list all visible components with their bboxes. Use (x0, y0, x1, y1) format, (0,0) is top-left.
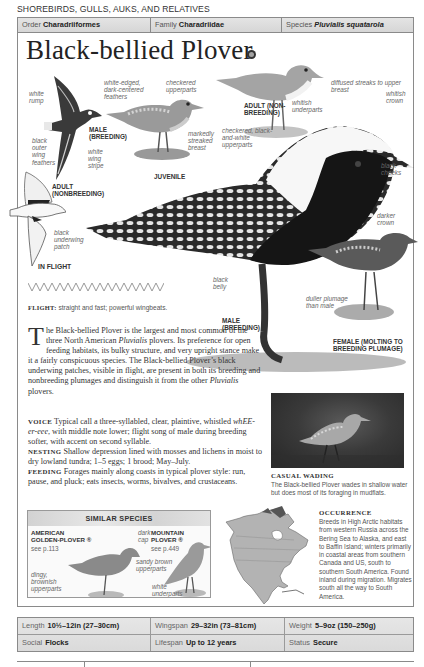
mountain-plover-illustration (164, 537, 211, 598)
label-checkered-black-white: checkered, black-and-white upperparts (222, 127, 278, 149)
intro-italic-1: Pluvialis (118, 336, 147, 345)
range-map (222, 506, 318, 606)
occurrence-title: OCCURRENCE (319, 509, 372, 516)
voice-text-2: , with middle note lower; flight song of… (28, 427, 247, 446)
taxonomy-species: Species Pluvialis squatarola (282, 18, 413, 32)
order-value: Charadriiformes (43, 20, 100, 29)
family-value: Charadriidae (179, 20, 224, 29)
label-black-underwing-patch: black underwing patch (54, 229, 88, 251)
order-label: Order (22, 20, 41, 29)
species-label: Species (286, 20, 312, 29)
flight-text: straight and fast; powerful wingbeats. (58, 304, 167, 311)
taxonomy-family: Family Charadriidae (151, 18, 282, 32)
stats-table: Length10½–12in (27–30cm) Wingspan29–32in… (17, 617, 414, 652)
label-black-cheeks: black cheeks (381, 162, 405, 176)
flight-pattern-zigzag-icon (28, 282, 164, 292)
similar-species-1-name: AMERICAN GOLDEN-PLOVER ® (31, 529, 93, 544)
divider (250, 662, 251, 667)
stat-status: StatusSecure (285, 635, 413, 652)
intro-text-3: plovers. (28, 387, 54, 396)
photo-caption-title: CASUAL WADING (271, 472, 334, 479)
flight-label: FLIGHT: (28, 304, 57, 311)
label-white-edged-feathers: white-edged, dark-centered feathers (104, 79, 152, 101)
label-checkered-upperparts: checkered upperparts (166, 79, 204, 93)
section-title: SHOREBIRDS, GULLS, AUKS, AND RELATIVES (17, 4, 210, 14)
intro-paragraph: The Black-bellied Plover is the largest … (28, 326, 262, 397)
photo-caption-text: The Black-bellied Plover wades in shallo… (271, 481, 411, 497)
label-black-belly: black belly (213, 276, 235, 290)
stat-value: 10½–12in (27–30cm) (48, 621, 120, 630)
label-darker-crown: darker crown (377, 212, 407, 226)
intro-italic-2: Pluvialis (210, 376, 239, 385)
american-golden-plover-illustration (66, 543, 140, 598)
stats-row: Length10½–12in (27–30cm) Wingspan29–32in… (18, 618, 413, 635)
caption-female-molting: FEMALE (MOLTING TO BREEDING PLUMAGE) (333, 338, 413, 353)
stat-label: Social (22, 638, 42, 647)
voice-label: VOICE (28, 418, 52, 425)
nesting-label: NESTING (28, 448, 61, 455)
stat-label: Length (22, 621, 45, 630)
stat-lifespan: LifespanUp to 12 years (151, 635, 285, 652)
casual-wading-photo (271, 393, 404, 468)
drop-cap: T (28, 327, 44, 347)
nesting-text: Shallow depression lined with mosses and… (28, 447, 262, 466)
voice-text-1: Typical call a three-syllabled, clear, p… (54, 417, 233, 426)
similar-species-heading: SIMILAR SPECIES (28, 511, 210, 526)
voice-paragraph: VOICE Typical call a three-syllabled, cl… (28, 417, 264, 447)
feeding-paragraph: FEEDING Forages mainly along coasts in t… (28, 467, 264, 487)
stat-label: Wingspan (155, 621, 188, 630)
stat-value: Secure (313, 638, 338, 647)
label-duller-plumage: duller plumage than male (306, 295, 356, 309)
stats-row: SocialFlocks LifespanUp to 12 years Stat… (18, 635, 413, 652)
stat-length: Length10½–12in (27–30cm) (18, 618, 151, 634)
next-page-edge (17, 661, 414, 667)
stat-weight: Weight5–9oz (150–250g) (285, 618, 413, 634)
nesting-paragraph: NESTING Shallow depression lined with mo… (28, 447, 264, 467)
stat-social: SocialFlocks (18, 635, 151, 652)
stat-label: Status (289, 638, 310, 647)
stat-label: Lifespan (155, 638, 183, 647)
female-illustration (306, 228, 418, 324)
feeding-label: FEEDING (28, 468, 62, 475)
occurrence-text: Breeds in High Arctic habitats from west… (319, 518, 413, 601)
flight-description: FLIGHT: straight and fast; powerful wing… (28, 304, 167, 311)
stat-label: Weight (289, 621, 312, 630)
similar-species-box: SIMILAR SPECIES AMERICAN GOLDEN-PLOVER ®… (27, 510, 211, 598)
label-dingy-brownish: dingy, brownish upperparts (31, 571, 71, 593)
stat-value: Up to 12 years (186, 638, 237, 647)
species-value: Pluvialis squatarola (314, 20, 383, 29)
taxonomy-order: Order Charadriiformes (18, 18, 151, 32)
stat-value: Flocks (45, 638, 68, 647)
similar-species-1-ref[interactable]: see p.113 (31, 545, 59, 552)
stat-value: 5–9oz (150–250g) (315, 621, 376, 630)
label-whitish-crown: whitish crown (386, 90, 416, 104)
divider (84, 662, 85, 667)
label-black-outer-wing: black outer wing feathers (32, 137, 56, 166)
stat-wingspan: Wingspan29–32in (73–81cm) (151, 618, 285, 634)
caption-in-flight: IN FLIGHT (38, 263, 71, 271)
label-white-rump: white rump (29, 90, 53, 104)
stat-value: 29–32in (73–81cm) (191, 621, 256, 630)
taxonomy-bar: Order Charadriiformes Family Charadriida… (17, 17, 414, 33)
family-label: Family (155, 20, 177, 29)
